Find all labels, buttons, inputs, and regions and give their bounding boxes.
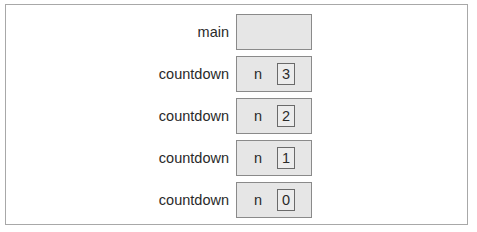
frame-box: n 1 — [236, 140, 312, 176]
frame-box: n 0 — [236, 182, 312, 218]
frame-label: countdown — [159, 182, 229, 218]
variable-value: 3 — [277, 63, 295, 85]
variable-name: n — [254, 99, 262, 133]
frame-countdown-3: countdown n 1 — [0, 140, 477, 176]
frame-label: countdown — [159, 56, 229, 92]
variable-name: n — [254, 57, 262, 91]
frame-box: n 3 — [236, 56, 312, 92]
frame-countdown-2: countdown n 2 — [0, 98, 477, 134]
frame-main: main — [0, 14, 477, 50]
frame-label: countdown — [159, 140, 229, 176]
frame-box — [236, 14, 312, 50]
frame-countdown-1: countdown n 3 — [0, 56, 477, 92]
variable-value: 2 — [277, 105, 295, 127]
frame-label: main — [198, 14, 229, 50]
variable-name: n — [254, 183, 262, 217]
frame-label: countdown — [159, 98, 229, 134]
variable-name: n — [254, 141, 262, 175]
frame-box: n 2 — [236, 98, 312, 134]
variable-value: 0 — [277, 189, 295, 211]
frame-countdown-4: countdown n 0 — [0, 182, 477, 218]
variable-value: 1 — [277, 147, 295, 169]
